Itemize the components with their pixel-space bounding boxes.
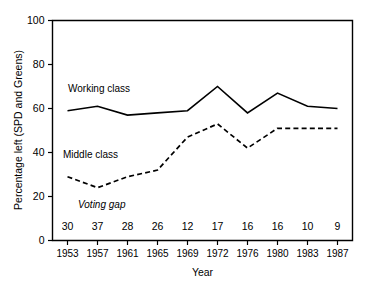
- x-tick-label: 1965: [146, 248, 169, 259]
- x-tick-label: 1976: [236, 248, 259, 259]
- y-tick-label: 100: [27, 14, 45, 26]
- chart-container: 0204060801001953301957371961281965261969…: [0, 0, 367, 288]
- voting-gap-value: 37: [92, 220, 104, 232]
- series-label-working-class: Working class: [68, 83, 130, 94]
- x-tick-label: 1987: [326, 248, 349, 259]
- voting-gap-value: 17: [212, 220, 224, 232]
- y-tick-label: 60: [33, 102, 45, 114]
- voting-gap-value: 28: [122, 220, 134, 232]
- x-tick-label: 1969: [176, 248, 199, 259]
- x-tick-label: 1961: [116, 248, 139, 259]
- x-tick-label: 1953: [56, 248, 79, 259]
- voting-gap-value: 9: [335, 220, 341, 232]
- x-tick-label: 1972: [206, 248, 229, 259]
- voting-gap-value: 30: [62, 220, 74, 232]
- x-tick-label: 1983: [296, 248, 319, 259]
- y-tick-label: 20: [33, 190, 45, 202]
- voting-gap-value: 26: [152, 220, 164, 232]
- voting-gap-value: 16: [272, 220, 284, 232]
- series-label-voting-gap: Voting gap: [78, 199, 126, 210]
- x-tick-label: 1957: [86, 248, 109, 259]
- line-chart: 0204060801001953301957371961281965261969…: [0, 0, 367, 288]
- voting-gap-value: 16: [242, 220, 254, 232]
- y-axis-title: Percentage left (SPD and Greens): [12, 50, 24, 210]
- voting-gap-value: 10: [302, 220, 314, 232]
- series-label-middle-class: Middle class: [63, 149, 118, 160]
- x-axis-title: Year: [192, 266, 214, 278]
- x-tick-label: 1980: [266, 248, 289, 259]
- voting-gap-value: 12: [182, 220, 194, 232]
- y-tick-label: 40: [33, 146, 45, 158]
- y-tick-label: 0: [39, 234, 45, 246]
- y-tick-label: 80: [33, 58, 45, 70]
